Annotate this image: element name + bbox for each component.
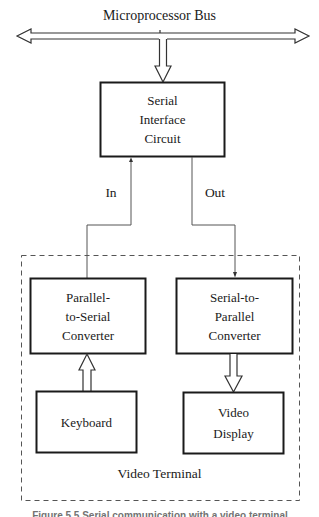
parallel-to-serial-line-2: to-Serial [66, 307, 111, 326]
serial-to-parallel-line-2: Parallel [215, 307, 255, 326]
figure-caption: Figure 5.5 Serial communication with a v… [10, 509, 310, 517]
keyboard-to-converter-arrow [79, 354, 95, 391]
serial-interface-line-1: Serial [147, 91, 177, 110]
serial-to-parallel-line-3: Converter [209, 326, 261, 345]
serial-interface-line-2: Interface [139, 110, 185, 129]
serial-interface-label: Serial Interface Circuit [101, 83, 224, 156]
keyboard-line-1: Keyboard [61, 413, 112, 432]
parallel-to-serial-label: Parallel- to-Serial Converter [31, 279, 145, 353]
in-label: In [96, 183, 126, 203]
keyboard-label: Keyboard [37, 392, 136, 452]
parallel-to-serial-line-1: Parallel- [66, 288, 110, 307]
bus-label: Microprocessor Bus [0, 6, 319, 26]
parallel-to-serial-line-3: Converter [62, 326, 114, 345]
video-display-line-2: Display [213, 423, 253, 444]
video-display-line-1: Video [218, 402, 249, 423]
serial-interface-line-3: Circuit [144, 129, 180, 148]
converter-to-display-arrow [225, 354, 242, 392]
video-terminal-label: Video Terminal [0, 464, 319, 484]
in-connector [87, 158, 133, 279]
out-connector [192, 157, 237, 278]
serial-to-parallel-label: Serial-to- Parallel Converter [177, 279, 292, 353]
bus-to-interface-arrow [155, 38, 171, 82]
serial-to-parallel-line-1: Serial-to- [210, 288, 259, 307]
video-display-label: Video Display [184, 393, 283, 453]
out-label: Out [198, 183, 232, 203]
